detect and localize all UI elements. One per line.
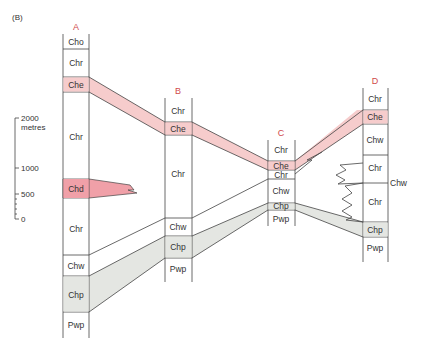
unit-label: Chd — [68, 184, 84, 194]
unit-label: Chp — [68, 290, 84, 300]
unit-label: Chr — [69, 58, 83, 68]
unit-label: Chr — [368, 94, 382, 104]
unit-label: Pwp — [170, 264, 187, 274]
scale-tick-0: 0 — [21, 215, 26, 224]
unit-label: Chp — [170, 242, 186, 252]
unit-label: Che — [68, 80, 84, 90]
column-title-c: C — [278, 128, 285, 138]
unit-label: Chr — [171, 106, 185, 116]
unit-label: Chp — [367, 225, 383, 235]
unit-label: Chw — [366, 135, 384, 145]
che-correlation-band — [89, 77, 363, 170]
column-c-labels: Chr Che Chr Chw Chp Pwp — [272, 145, 290, 224]
column-title-b: B — [175, 86, 181, 96]
diagram-canvas: (B) A B C D Cho Chr Che Chr Chd Chr Chw … — [0, 0, 428, 349]
unit-label: Chr — [69, 132, 83, 142]
unit-label: Chw — [67, 261, 85, 271]
column-title-a: A — [73, 22, 79, 32]
unit-label: Che — [170, 124, 186, 134]
unit-label: Chr — [69, 224, 83, 234]
unit-label: Cho — [68, 37, 84, 47]
scale-tick-1000: 1000 — [21, 164, 39, 173]
unit-label: Chw — [169, 222, 187, 232]
stratigraphic-correlation-diagram: (B) A B C D Cho Chr Che Chr Chd Chr Chw … — [0, 0, 428, 349]
chp-correlation-band — [89, 203, 363, 312]
unit-label: Chp — [273, 201, 289, 211]
scale-tick-500: 500 — [21, 190, 35, 199]
d-side-label: Chw — [390, 178, 408, 188]
unit-label: Chr — [368, 163, 382, 173]
unit-label: Pwp — [68, 320, 85, 330]
unit-label: Chr — [274, 145, 288, 155]
unit-label: Chr — [368, 197, 382, 207]
column-title-d: D — [372, 76, 379, 86]
scale-tick-2000: 2000 — [21, 114, 39, 123]
unit-label: Pwp — [273, 214, 290, 224]
unit-label: Chr — [274, 170, 288, 180]
unit-label: Che — [367, 112, 383, 122]
panel-label: (B) — [12, 13, 23, 22]
unit-label: Chr — [171, 169, 185, 179]
column-d-labels: Chr Che Chw Chr Chr Chp Pwp — [366, 94, 384, 253]
scale-unit: metres — [21, 123, 45, 132]
unit-label: Pwp — [367, 243, 384, 253]
unit-label: Chw — [272, 186, 290, 196]
scale-bar — [15, 118, 19, 219]
column-b-labels: Chr Che Chr Chw Chp Pwp — [169, 106, 187, 274]
